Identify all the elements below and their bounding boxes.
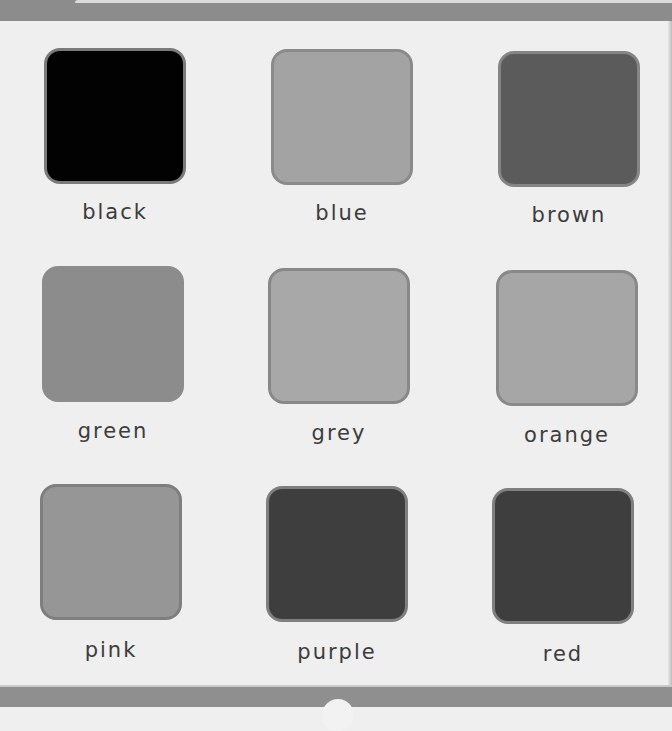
color-swatch-purple: [266, 486, 408, 622]
color-label-blue: blue: [242, 201, 442, 225]
color-label-purple: purple: [237, 640, 437, 664]
bottom-page-band: [0, 685, 672, 707]
color-label-pink: pink: [11, 638, 211, 662]
page-right-edge: [668, 21, 672, 685]
page-edge: [75, 0, 672, 3]
color-label-green: green: [13, 419, 213, 443]
color-label-black: black: [15, 200, 215, 224]
color-label-grey: grey: [239, 421, 439, 445]
band-notch: [0, 0, 75, 3]
color-swatch-green: [42, 266, 184, 402]
color-swatch-blue: [271, 49, 413, 185]
color-swatch-orange: [496, 270, 638, 406]
color-swatch-brown: [498, 51, 640, 187]
top-page-band: [0, 0, 672, 21]
color-label-red: red: [463, 642, 663, 666]
color-label-orange: orange: [467, 423, 667, 447]
color-swatch-black: [44, 48, 186, 184]
color-swatch-grey: [268, 268, 410, 404]
color-label-brown: brown: [469, 203, 669, 227]
color-swatch-pink: [40, 484, 182, 620]
page-tab-circle: [322, 699, 354, 731]
color-swatch-red: [492, 488, 634, 624]
